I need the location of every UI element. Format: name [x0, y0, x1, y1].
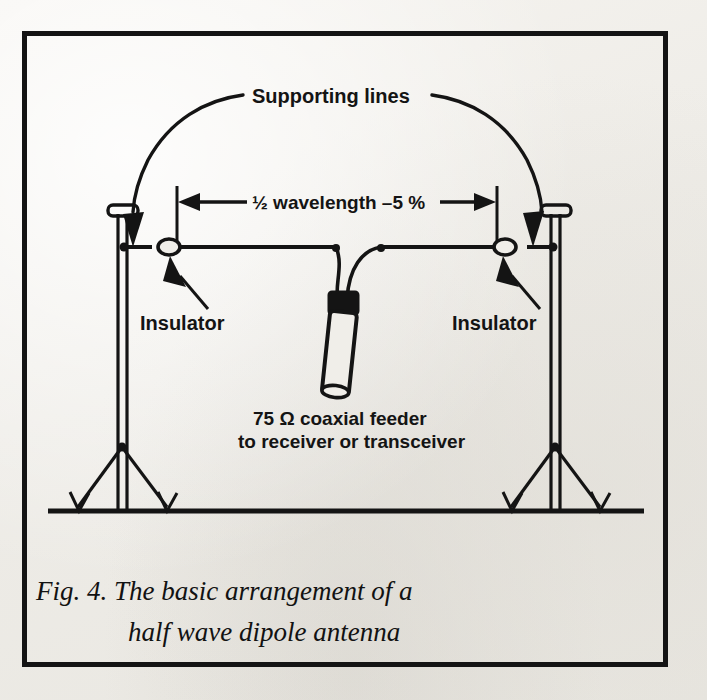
caption-line-1: Fig. 4. The basic arrangement of a: [35, 576, 412, 606]
insulator-bead-right: [494, 239, 516, 255]
caption-line-2: half wave dipole antenna: [128, 617, 400, 647]
arc-right: [432, 95, 542, 212]
supporting-lines-label: Supporting lines: [252, 85, 410, 107]
insulator-left-label: Insulator: [140, 312, 225, 334]
antenna-wire-right-end-dot: [377, 244, 385, 252]
arc-left: [133, 95, 243, 212]
insulator-left-leader: [180, 276, 208, 309]
mast-left-arm-joint: [120, 243, 129, 252]
antenna-wire-left-end-dot: [332, 244, 340, 252]
insulator-bead-left: [158, 239, 180, 255]
insulator-right-label: Insulator: [452, 312, 537, 334]
guy-right-joint: [551, 443, 560, 452]
guy-left-joint: [118, 443, 127, 452]
antenna-diagram: Supporting lines ½ wavelength –5 %: [0, 0, 707, 700]
arc-right-arrowhead: [523, 211, 544, 247]
insulator-right-leader: [512, 276, 540, 309]
anchor-right-b: [591, 492, 610, 511]
feeder-label-line2: to receiver or transceiver: [238, 431, 466, 452]
anchor-left-b: [158, 492, 177, 511]
insulator-left-arrowhead: [163, 256, 186, 287]
dimension-arrow-right: [474, 193, 496, 211]
mast-right-cap: [541, 205, 571, 216]
coax-cable: [321, 311, 357, 399]
figure-page: Supporting lines ½ wavelength –5 %: [0, 0, 707, 700]
feeder-label-line1: 75 Ω coaxial feeder: [253, 408, 427, 429]
mast-right-arm-joint: [549, 243, 558, 252]
dimension-arrow-left: [178, 193, 200, 211]
insulator-right-arrowhead: [496, 256, 519, 287]
dimension-label: ½ wavelength –5 %: [252, 192, 425, 213]
coax-cable-end: [321, 384, 349, 399]
coax-cable-body: [322, 311, 357, 395]
